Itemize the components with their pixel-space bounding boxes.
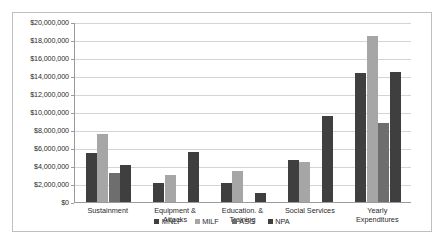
bar-group [210, 23, 277, 202]
legend-item[interactable]: NPA [268, 218, 290, 225]
bar [255, 193, 266, 202]
bar [188, 152, 199, 202]
legend-label: NPA [275, 218, 289, 225]
legend-label: MILF [202, 218, 219, 225]
bar-group [142, 23, 209, 202]
legend-item[interactable]: ASG [232, 218, 255, 225]
legend-item[interactable]: MNLF [154, 218, 181, 225]
y-axis-tick-label: $18,000,000 [11, 37, 69, 44]
y-axis-tick-label: $6,000,000 [11, 145, 69, 152]
bar [367, 36, 378, 202]
bar [120, 165, 131, 202]
y-axis-tick-label: $10,000,000 [11, 109, 69, 116]
bar [109, 173, 120, 202]
bar-group [345, 23, 412, 202]
plot-area [74, 23, 411, 203]
y-axis-tick-label: $14,000,000 [11, 73, 69, 80]
y-axis-tick-label: $4,000,000 [11, 163, 69, 170]
y-axis-tick-label: $0 [11, 199, 69, 206]
legend-label: MNLF [162, 218, 182, 225]
bar [97, 134, 108, 202]
y-axis-tick-label: $20,000,000 [11, 19, 69, 26]
legend-swatch-icon [232, 219, 237, 224]
y-axis-tick-label: $16,000,000 [11, 55, 69, 62]
bar [221, 183, 232, 202]
bar [232, 171, 243, 202]
bar [288, 160, 299, 202]
bar [322, 116, 333, 202]
chart-frame: $20,000,000$18,000,000$16,000,000$14,000… [12, 12, 432, 232]
bar-group [277, 23, 344, 202]
y-axis-tick-mark [71, 203, 74, 204]
y-axis-tick-label: $2,000,000 [11, 181, 69, 188]
chart-legend: MNLFMILFASGNPA [13, 218, 431, 225]
legend-swatch-icon [195, 219, 200, 224]
bar [390, 72, 401, 203]
legend-item[interactable]: MILF [195, 218, 219, 225]
bar [153, 183, 164, 202]
legend-swatch-icon [154, 219, 159, 224]
bar [355, 73, 366, 202]
y-axis-tick-label: $12,000,000 [11, 91, 69, 98]
bar [86, 153, 97, 203]
x-axis-category-label: Sustainment [74, 207, 141, 216]
y-axis-tick-label: $8,000,000 [11, 127, 69, 134]
bar [299, 162, 310, 203]
bar [378, 123, 389, 202]
x-axis-category-label: Social Services [276, 207, 343, 216]
legend-label: ASG [239, 218, 254, 225]
bar-group [75, 23, 142, 202]
legend-swatch-icon [268, 219, 273, 224]
bar [165, 175, 176, 202]
